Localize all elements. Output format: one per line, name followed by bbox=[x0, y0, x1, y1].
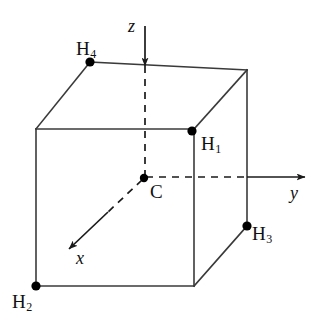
atom-label-H4-element: H bbox=[76, 38, 90, 59]
cube-edge-top-back bbox=[90, 62, 247, 70]
atom-label-C: C bbox=[150, 182, 163, 201]
atom-label-H1-element: H bbox=[201, 133, 215, 154]
cube-front-face bbox=[36, 129, 194, 286]
atom-label-C-element: C bbox=[150, 181, 163, 202]
atom-label-H3-index: 3 bbox=[266, 232, 272, 246]
methane-cube-diagram: z y x C H1 H2 H3 H4 bbox=[0, 0, 322, 324]
atom-label-H2-index: 2 bbox=[26, 300, 32, 314]
atom-dot-C bbox=[140, 174, 148, 182]
atom-dot-H3 bbox=[242, 221, 251, 230]
atom-label-H1-index: 1 bbox=[215, 142, 221, 156]
atom-label-H4-index: 4 bbox=[90, 47, 96, 61]
cube-edge-bottom-right-diag bbox=[194, 226, 247, 286]
cube-edge-top-right-diag bbox=[194, 70, 247, 129]
cube-edge-top-left-diag bbox=[36, 62, 90, 129]
axis-label-z: z bbox=[128, 17, 135, 35]
atom-label-H1: H1 bbox=[201, 134, 221, 155]
axis-x bbox=[69, 180, 142, 249]
axis-label-y: y bbox=[290, 184, 298, 202]
atom-dot-H1 bbox=[187, 126, 196, 135]
diagram-canvas bbox=[0, 0, 322, 324]
atom-label-H4: H4 bbox=[76, 39, 96, 60]
cube-right-face bbox=[194, 70, 247, 286]
axis-x-dashed-segment bbox=[108, 180, 142, 212]
atom-label-H2-element: H bbox=[12, 291, 26, 312]
atom-label-H2: H2 bbox=[12, 292, 32, 313]
axis-x-solid-segment bbox=[69, 212, 108, 249]
axis-label-x: x bbox=[76, 249, 84, 267]
cube-top-face bbox=[36, 62, 247, 129]
atom-vertex-dots bbox=[31, 57, 251, 290]
atom-dot-H2 bbox=[31, 281, 40, 290]
atom-label-H3: H3 bbox=[252, 224, 272, 245]
atom-label-H3-element: H bbox=[252, 223, 266, 244]
